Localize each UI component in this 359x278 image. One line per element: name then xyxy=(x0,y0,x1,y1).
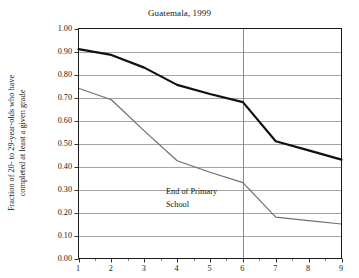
chart-figure: Guatemala, 1999 Fraction of 20- to 29-ye… xyxy=(0,0,359,278)
x-tick-label: 1 xyxy=(76,264,80,273)
y-axis-ticks xyxy=(75,30,79,260)
x-tick-label: 3 xyxy=(142,264,146,273)
x-tick-label: 2 xyxy=(109,264,113,273)
x-tick-label: 9 xyxy=(339,264,343,273)
end-of-primary-school-annotation: End of Primary School xyxy=(166,186,217,211)
series-line-upper xyxy=(79,49,342,159)
plot-canvas xyxy=(0,0,359,278)
x-tick-label: 7 xyxy=(273,264,277,273)
annotation-line-1: End of Primary xyxy=(166,186,217,199)
plot-frame xyxy=(79,29,342,259)
x-tick-label: 8 xyxy=(306,264,310,273)
x-tick-label: 6 xyxy=(240,264,244,273)
x-tick-label: 5 xyxy=(207,264,211,273)
annotation-line-2: School xyxy=(166,199,217,212)
x-axis-tick-labels: 123456789 xyxy=(78,259,341,277)
x-tick-label: 4 xyxy=(175,264,179,273)
